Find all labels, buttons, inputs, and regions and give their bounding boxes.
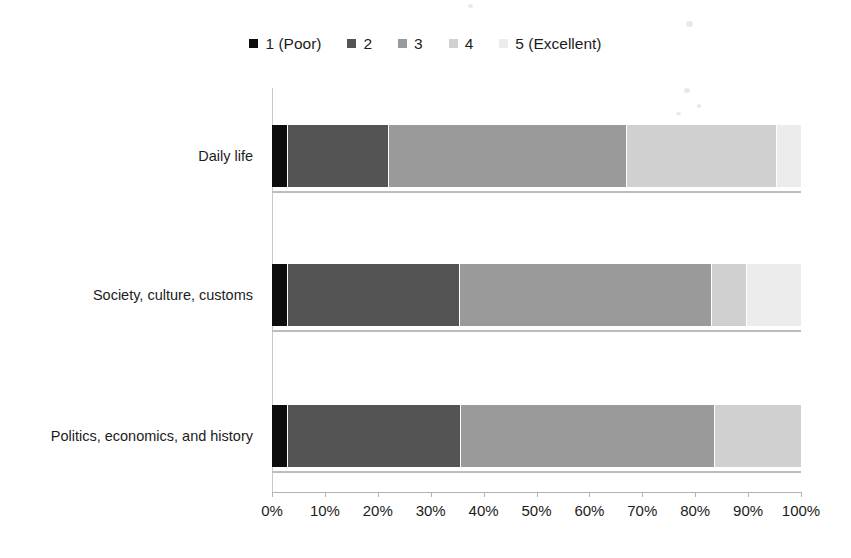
x-axis-tick: [272, 492, 273, 497]
legend-label: 3: [414, 36, 423, 52]
legend-label: 2: [363, 36, 372, 52]
x-axis-tick: [801, 492, 802, 497]
bar-segment[interactable]: [272, 125, 288, 187]
y-axis-category-labels: Daily lifeSociety, culture, customsPolit…: [0, 88, 263, 492]
bar-segment[interactable]: [288, 264, 460, 326]
bar-segment[interactable]: [777, 125, 801, 187]
scan-speckle: [468, 4, 473, 8]
bar-segment[interactable]: [461, 405, 715, 467]
y-axis-category-label: Society, culture, customs: [93, 287, 253, 303]
legend-label: 5 (Excellent): [515, 36, 601, 52]
legend-entry[interactable]: 2: [347, 36, 372, 52]
bar-baseline: [272, 471, 801, 473]
bar-segment[interactable]: [715, 405, 801, 467]
legend-swatch-icon: [398, 39, 407, 48]
legend-swatch-icon: [249, 39, 258, 48]
x-axis-tick: [484, 492, 485, 497]
x-axis-tick: [589, 492, 590, 497]
x-axis-tick: [431, 492, 432, 497]
bar-segment[interactable]: [627, 125, 777, 187]
bar-segment[interactable]: [747, 264, 801, 326]
bar-track: [272, 125, 801, 187]
legend-entry[interactable]: 5 (Excellent): [499, 36, 601, 52]
x-axis-tick-label: 0%: [261, 502, 283, 519]
x-axis-tick: [537, 492, 538, 497]
bar-segment[interactable]: [712, 264, 747, 326]
legend-swatch-icon: [347, 39, 356, 48]
x-axis-tick: [378, 492, 379, 497]
bar-row: [272, 264, 801, 326]
scan-speckle: [686, 21, 693, 27]
x-axis-tick-label: 70%: [627, 502, 657, 519]
y-axis-category-label: Daily life: [198, 148, 253, 164]
bar-track: [272, 405, 801, 467]
legend-entry[interactable]: 1 (Poor): [249, 36, 321, 52]
legend-swatch-icon: [449, 39, 458, 48]
plot-area: 0%10%20%30%40%50%60%70%80%90%100%: [272, 88, 801, 492]
x-axis-tick-label: 100%: [782, 502, 820, 519]
x-axis-tick-label: 90%: [733, 502, 763, 519]
legend-label: 4: [465, 36, 474, 52]
bar-baseline: [272, 191, 801, 193]
x-axis-tick: [325, 492, 326, 497]
bar-segment[interactable]: [460, 264, 712, 326]
stacked-bar-chart: 1 (Poor)2345 (Excellent) Daily lifeSocie…: [0, 0, 851, 558]
x-axis-tick-label: 30%: [416, 502, 446, 519]
bar-segment[interactable]: [272, 264, 288, 326]
x-axis-tick: [748, 492, 749, 497]
legend-entry[interactable]: 3: [398, 36, 423, 52]
legend-swatch-icon: [499, 39, 508, 48]
bar-track: [272, 264, 801, 326]
x-axis-tick: [695, 492, 696, 497]
bar-segment[interactable]: [389, 125, 627, 187]
x-axis-tick-label: 50%: [521, 502, 551, 519]
bar-row: [272, 405, 801, 467]
legend-entry[interactable]: 4: [449, 36, 474, 52]
x-axis-tick-label: 10%: [310, 502, 340, 519]
legend-label: 1 (Poor): [265, 36, 321, 52]
x-axis-tick-label: 20%: [363, 502, 393, 519]
bar-segment[interactable]: [272, 405, 288, 467]
x-axis-tick-label: 60%: [574, 502, 604, 519]
chart-legend: 1 (Poor)2345 (Excellent): [0, 36, 851, 52]
x-axis-tick: [642, 492, 643, 497]
y-axis-category-label: Politics, economics, and history: [51, 428, 253, 444]
bar-baseline: [272, 330, 801, 332]
bar-segment[interactable]: [288, 125, 389, 187]
bar-row: [272, 125, 801, 187]
x-axis-tick-label: 80%: [680, 502, 710, 519]
bar-segment[interactable]: [288, 405, 461, 467]
x-axis-tick-label: 40%: [469, 502, 499, 519]
